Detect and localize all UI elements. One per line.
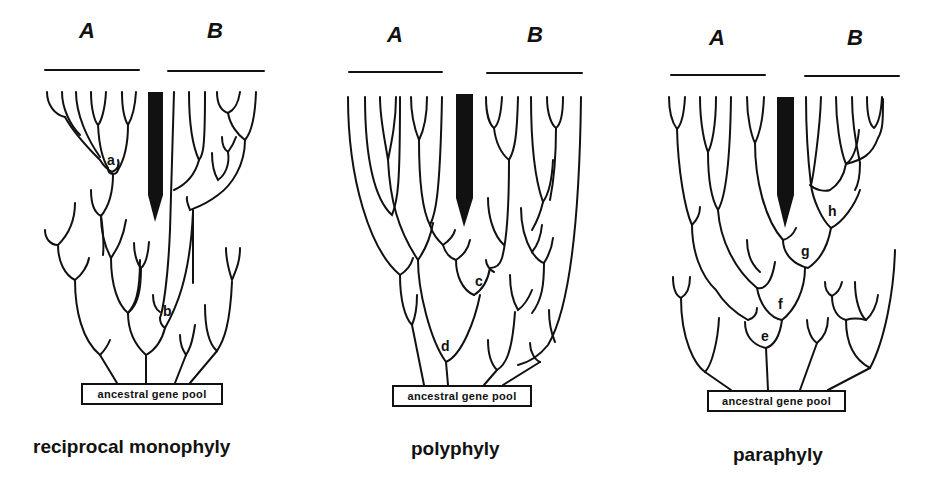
ancestral-gene-pool-box: ancestral gene pool: [81, 383, 223, 405]
group-b-label: B: [527, 22, 543, 48]
barrier-icon: [456, 94, 473, 227]
group-a-label: A: [709, 25, 725, 51]
node-label-h: h: [828, 203, 837, 219]
group-a-label: A: [387, 22, 403, 48]
group-b-label: B: [847, 25, 863, 51]
panel-paraphyly-tree: [669, 75, 899, 390]
node-label-e: e: [761, 328, 769, 344]
gene-tree-diagram: [0, 0, 929, 491]
node-label-c: c: [475, 273, 483, 289]
node-label-f: f: [778, 296, 783, 312]
group-a-label: A: [79, 18, 95, 44]
ancestral-gene-pool-box: ancestral gene pool: [392, 385, 532, 407]
ancestral-gene-pool-box: ancestral gene pool: [707, 390, 846, 412]
node-label-b: b: [163, 303, 172, 319]
caption-reciprocal-monophyly: reciprocal monophyly: [33, 436, 230, 458]
caption-paraphyly: paraphyly: [733, 444, 823, 466]
group-b-label: B: [207, 18, 223, 44]
panel-polyphyly-tree: [348, 72, 582, 385]
barrier-icon: [777, 97, 794, 228]
node-label-a: a: [107, 152, 115, 168]
caption-polyphyly: polyphyly: [411, 438, 500, 460]
node-label-g: g: [801, 243, 810, 259]
barrier-icon: [148, 92, 163, 222]
panel-reciprocal-monophyly-tree: [45, 70, 264, 383]
node-label-d: d: [441, 338, 450, 354]
